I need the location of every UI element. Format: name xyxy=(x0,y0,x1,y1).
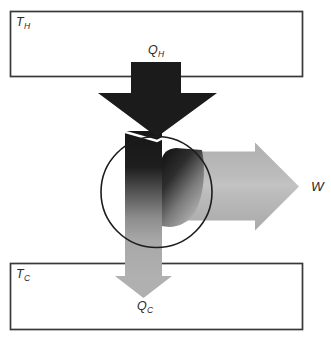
work-label-text: W xyxy=(311,179,324,194)
heat-in-label-main: Q xyxy=(148,43,158,57)
cold-reservoir-label-main: T xyxy=(16,267,24,281)
work-label: W xyxy=(311,180,324,194)
cold-reservoir-label-sub: C xyxy=(24,273,30,283)
heat-in-label: QH xyxy=(148,44,164,59)
heat-engine-diagram: TH QH W TC QC xyxy=(0,0,331,338)
heat-out-label-main: Q xyxy=(137,299,147,313)
hot-reservoir-label-sub: H xyxy=(24,21,30,31)
hot-reservoir-label: TH xyxy=(16,16,30,31)
heat-in-label-sub: H xyxy=(158,49,164,59)
heat-out-shaft xyxy=(125,131,162,277)
diagram-canvas xyxy=(0,0,331,338)
heat-out-label-sub: C xyxy=(147,305,153,315)
cold-reservoir-label: TC xyxy=(16,268,30,283)
hot-reservoir-label-main: T xyxy=(16,15,24,29)
heat-out-label: QC xyxy=(137,300,153,315)
